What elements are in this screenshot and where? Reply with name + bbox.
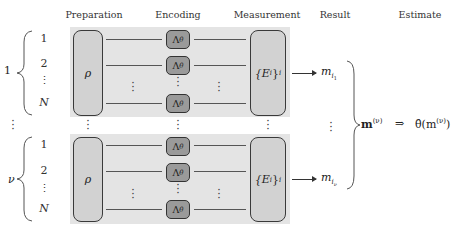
group-label: 1	[4, 64, 11, 77]
left-brace-icon	[14, 30, 34, 116]
header-estimate: Estimate	[399, 9, 442, 20]
encoding-channel-box: Λθ	[166, 94, 190, 113]
measurement-vector: m(ν)	[361, 117, 382, 131]
wire	[106, 209, 162, 210]
index-N: N	[39, 202, 49, 215]
wire	[106, 171, 162, 172]
vertical-dots: ···	[130, 82, 136, 94]
wire	[106, 145, 162, 146]
state-preparation-box: ρ	[73, 30, 103, 116]
wire	[194, 103, 246, 104]
header-preparation: Preparation	[65, 9, 122, 20]
encoding-channel-box: Λθ	[166, 163, 190, 182]
header-measurement: Measurement	[234, 9, 301, 20]
measurement-box: {Ei}i	[250, 30, 286, 116]
vertical-dots: ···	[216, 189, 222, 201]
wire	[106, 65, 162, 66]
vertical-dots: ···	[85, 120, 91, 132]
index-dots: ⋮	[39, 182, 50, 195]
left-brace-icon	[14, 136, 34, 222]
result-m-nu: miν	[321, 171, 337, 188]
index-dots: ⋮	[39, 74, 50, 87]
state-preparation-box: ρ	[73, 137, 103, 222]
arrow-icon	[292, 73, 316, 74]
encoding-channel-box: Λθ	[166, 200, 190, 219]
encoding-channel-box: Λθ	[166, 137, 190, 156]
vertical-dots: ···	[328, 122, 334, 134]
wire	[194, 65, 246, 66]
vertical-dots: ···	[265, 120, 271, 132]
vertical-dots: ···	[175, 184, 181, 196]
index-2: 2	[41, 57, 48, 70]
index-1: 1	[41, 32, 48, 45]
wire	[106, 39, 162, 40]
header-encoding: Encoding	[155, 9, 200, 20]
rho-label: ρ	[85, 67, 91, 80]
index-1: 1	[41, 138, 48, 151]
estimator: θ̂(m(ν))	[415, 117, 450, 131]
vertical-dots: ···	[175, 77, 181, 89]
wire	[194, 171, 246, 172]
header-result: Result	[320, 9, 351, 20]
result-m1: mi1	[321, 65, 337, 82]
arrow-icon	[292, 179, 316, 180]
encoding-channel-box: Λθ	[166, 56, 190, 75]
wire	[194, 209, 246, 210]
implies-icon: ⇒	[395, 117, 404, 130]
vertical-dots: ···	[175, 120, 181, 132]
vertical-dots: ···	[130, 189, 136, 201]
right-brace-icon	[346, 60, 362, 190]
measurement-box: {Ei}i	[250, 137, 286, 222]
index-N: N	[39, 96, 49, 109]
wire	[194, 39, 246, 40]
wire	[194, 145, 246, 146]
rho-label: ρ	[85, 173, 91, 186]
vertical-dots: ···	[216, 82, 222, 94]
encoding-channel-box: Λθ	[166, 30, 190, 49]
vertical-dots: ···	[10, 120, 16, 132]
index-2: 2	[41, 164, 48, 177]
wire	[106, 103, 162, 104]
